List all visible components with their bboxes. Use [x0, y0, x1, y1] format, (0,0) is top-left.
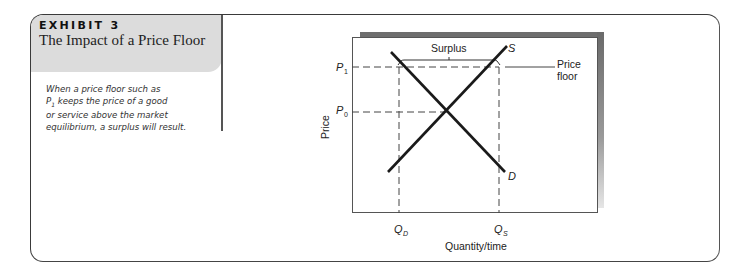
price-floor-chart: Surplus S D Price floor P 1 P 0 Q D Q S …: [0, 0, 731, 275]
qd-tick-sub: D: [403, 230, 408, 237]
demand-label: D: [508, 170, 516, 182]
y-axis-label: Price: [319, 115, 331, 139]
qs-tick-label: Q: [494, 223, 503, 235]
price-floor-label-line2: floor: [557, 70, 578, 82]
price-floor-label-line1: Price: [557, 58, 581, 70]
qs-tick-sub: S: [503, 230, 508, 237]
plot-shadow-right: [597, 32, 604, 208]
p1-tick-label: P: [336, 61, 344, 73]
p1-tick-sub: 1: [344, 68, 348, 75]
p0-tick-sub: 0: [344, 111, 348, 118]
qd-tick-label: Q: [394, 223, 403, 235]
surplus-label: Surplus: [431, 42, 467, 54]
supply-label: S: [508, 42, 516, 54]
x-axis-label: Quantity/time: [445, 240, 507, 252]
p0-tick-label: P: [336, 104, 344, 116]
